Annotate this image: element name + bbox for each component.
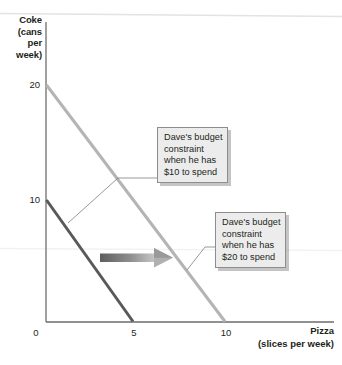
callout-budget-10-line3: when he has xyxy=(164,155,222,167)
shift-arrow-icon xyxy=(100,248,173,268)
callout-budget-20: Dave's budget constraint when he has $20… xyxy=(215,212,286,268)
x-axis-label: Pizza xyxy=(310,325,334,336)
callout-budget-20-line4: $20 to spend xyxy=(222,252,280,264)
x-tick-10: 10 xyxy=(216,327,236,338)
callout-budget-10-line4: $10 to spend xyxy=(164,167,222,179)
y-axis-label: Coke (cans per week) xyxy=(6,14,42,60)
x-axis-label-sub: (slices per week) xyxy=(258,338,334,349)
y-tick-10: 10 xyxy=(18,194,40,205)
y-axis-label-line3: per xyxy=(6,37,42,49)
callout-budget-20-line3: when he has xyxy=(222,240,280,252)
callout-budget-10-line1: Dave's budget xyxy=(164,132,222,144)
x-tick-0: 0 xyxy=(26,327,46,338)
top-rule xyxy=(0,14,342,17)
y-tick-20: 20 xyxy=(18,79,40,90)
y-axis-label-line4: week) xyxy=(6,49,42,61)
callout-budget-20-line2: constraint xyxy=(222,229,280,241)
callout-budget-10: Dave's budget constraint when he has $10… xyxy=(157,127,228,183)
callout-budget-10-line2: constraint xyxy=(164,144,222,156)
y-axis-label-line1: Coke xyxy=(6,14,42,26)
budget-line-20 xyxy=(47,85,226,322)
callout-budget-20-line1: Dave's budget xyxy=(222,217,280,229)
y-axis-label-line2: (cans xyxy=(6,26,42,38)
x-tick-5: 5 xyxy=(124,327,144,338)
leader-line-10 xyxy=(68,178,157,223)
leader-line-20 xyxy=(187,247,215,270)
chart-figure: Coke (cans per week) 20 10 0 5 10 Pizza … xyxy=(0,0,342,365)
